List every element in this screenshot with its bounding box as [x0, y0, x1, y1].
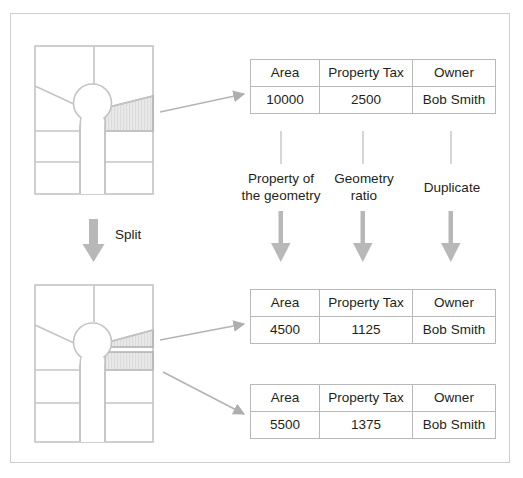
column-header-area: Area: [251, 385, 320, 412]
rule-label-owner: Duplicate: [406, 179, 498, 196]
cell-tax: 1375: [320, 412, 413, 439]
cell-owner: Bob Smith: [413, 87, 496, 114]
column-header-tax: Property Tax: [320, 60, 413, 87]
table-row: Area Property Tax Owner: [251, 60, 496, 87]
cell-area: 10000: [251, 87, 320, 114]
table-row: 10000 2500 Bob Smith: [251, 87, 496, 114]
rule-label-tax: Geometry ratio: [318, 170, 410, 204]
column-header-owner: Owner: [413, 290, 496, 317]
cell-owner: Bob Smith: [413, 412, 496, 439]
cell-area: 5500: [251, 412, 320, 439]
table-row: 5500 1375 Bob Smith: [251, 412, 496, 439]
column-header-owner: Owner: [413, 385, 496, 412]
column-header-tax: Property Tax: [320, 385, 413, 412]
cell-owner: Bob Smith: [413, 317, 496, 344]
column-header-owner: Owner: [413, 60, 496, 87]
table-row: 4500 1125 Bob Smith: [251, 317, 496, 344]
cell-tax: 1125: [320, 317, 413, 344]
split-label: Split: [115, 227, 141, 242]
diagram-figure: Split Area Property Tax Owner 10000 2500…: [0, 0, 523, 478]
column-header-area: Area: [251, 290, 320, 317]
cell-tax: 2500: [320, 87, 413, 114]
table-row: Area Property Tax Owner: [251, 385, 496, 412]
split-feature-table-a: Area Property Tax Owner 4500 1125 Bob Sm…: [250, 289, 496, 344]
cell-area: 4500: [251, 317, 320, 344]
column-header-tax: Property Tax: [320, 290, 413, 317]
original-feature-table: Area Property Tax Owner 10000 2500 Bob S…: [250, 59, 496, 114]
table-row: Area Property Tax Owner: [251, 290, 496, 317]
column-header-area: Area: [251, 60, 320, 87]
split-feature-table-b: Area Property Tax Owner 5500 1375 Bob Sm…: [250, 384, 496, 439]
